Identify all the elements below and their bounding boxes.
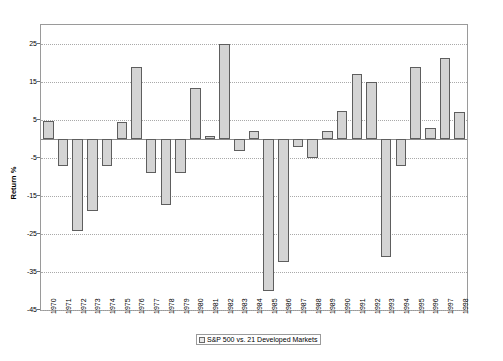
bar-1980: [190, 88, 201, 139]
x-tick-label: 1971: [65, 298, 72, 314]
bar-1992: [366, 82, 377, 139]
x-tick-label: 1981: [212, 298, 219, 314]
bar-1977: [146, 139, 157, 173]
y-tick-label: -35: [7, 268, 37, 275]
x-tick-label: 1987: [300, 298, 307, 314]
bar-1996: [425, 128, 436, 139]
x-tick-label: 1976: [138, 298, 145, 314]
x-tick-label: 1978: [168, 298, 175, 314]
x-tick-label: 1972: [80, 298, 87, 314]
x-tick-label: 1982: [227, 298, 234, 314]
bar-1985: [263, 139, 274, 291]
legend-swatch-icon: [199, 337, 205, 343]
y-tick-label: -5: [7, 154, 37, 161]
x-tick-label: 1983: [241, 298, 248, 314]
bar-1984: [249, 131, 260, 139]
bar-1976: [131, 67, 142, 139]
bar-1981: [205, 136, 216, 139]
x-tick-label: 1975: [124, 298, 131, 314]
gridline--35: [41, 272, 467, 273]
bar-1975: [117, 122, 128, 139]
bar-1972: [72, 139, 83, 231]
y-tick-label: -45: [7, 306, 37, 313]
bar-1982: [219, 44, 230, 139]
x-tick-label: 1994: [403, 298, 410, 314]
gridline--25: [41, 234, 467, 235]
x-tick-label: 1980: [197, 298, 204, 314]
x-tick-label: 1984: [256, 298, 263, 314]
x-tick-label: 1992: [374, 298, 381, 314]
gridline--15: [41, 196, 467, 197]
chart-legend: S&P 500 vs. 21 Developed Markets: [196, 334, 321, 345]
x-tick-label: 1997: [447, 298, 454, 314]
plot-area: [40, 24, 468, 311]
bar-1995: [410, 67, 421, 139]
bar-1989: [322, 131, 333, 139]
y-axis-tick-labels: 25155-5-15-25-35-45: [3, 24, 37, 311]
x-tick-label: 1991: [359, 298, 366, 314]
x-tick-label: 1995: [418, 298, 425, 314]
bar-1988: [307, 139, 318, 158]
plot-inner: [41, 25, 467, 310]
gridline-25: [41, 44, 467, 45]
x-tick-label: 1977: [153, 298, 160, 314]
x-tick-label: 1998: [462, 298, 469, 314]
y-tick-label: -25: [7, 230, 37, 237]
x-tick-label: 1996: [432, 298, 439, 314]
bar-1979: [175, 139, 186, 173]
bar-1974: [102, 139, 113, 166]
x-tick-label: 1986: [285, 298, 292, 314]
y-tick-label: 15: [7, 78, 37, 85]
x-tick-label: 1979: [183, 298, 190, 314]
x-tick-label: 1973: [94, 298, 101, 314]
bar-1990: [337, 111, 348, 139]
y-tick-label: 5: [7, 116, 37, 123]
x-tick-label: 1990: [344, 298, 351, 314]
x-tick-label: 1974: [109, 298, 116, 314]
bar-1978: [161, 139, 172, 205]
y-tick-label: -15: [7, 192, 37, 199]
bar-1986: [278, 139, 289, 262]
x-tick-label: 1988: [315, 298, 322, 314]
bar-1993: [381, 139, 392, 257]
legend-label: S&P 500 vs. 21 Developed Markets: [207, 336, 317, 344]
bar-1991: [352, 74, 363, 139]
x-tick-label: 1989: [329, 298, 336, 314]
y-tick-label: 25: [7, 40, 37, 47]
gridline-5: [41, 120, 467, 121]
bar-1994: [396, 139, 407, 166]
bar-chart: Return % 25155-5-15-25-35-45 19701971197…: [0, 0, 503, 361]
x-tick-label: 1993: [388, 298, 395, 314]
gridline-15: [41, 82, 467, 83]
x-tick-label: 1970: [50, 298, 57, 314]
bar-1983: [234, 139, 245, 151]
x-tick-label: 1985: [271, 298, 278, 314]
bar-1998: [454, 112, 465, 139]
bar-1971: [58, 139, 69, 166]
bar-1987: [293, 139, 304, 147]
bar-1970: [43, 121, 54, 139]
bar-1997: [440, 58, 451, 139]
bar-1973: [87, 139, 98, 211]
